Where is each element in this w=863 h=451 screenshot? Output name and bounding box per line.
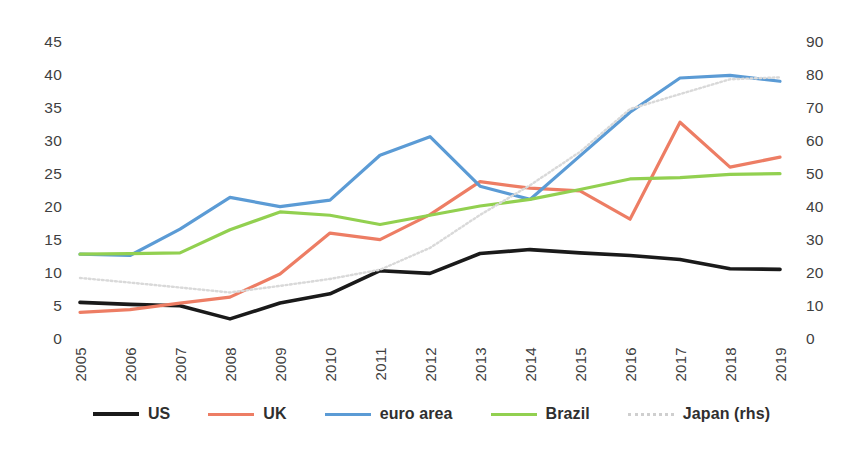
legend-label: US [148,405,170,423]
legend-swatch-icon [628,413,674,416]
series-line-uk [80,122,780,312]
legend-item-uk[interactable]: UK [208,405,286,423]
series-line-brazil [80,174,780,255]
legend-item-japan-rhs[interactable]: Japan (rhs) [628,405,770,423]
legend-label: Japan (rhs) [683,405,770,423]
legend-swatch-icon [491,413,537,416]
series-line-us [80,250,780,319]
plot-area [0,0,863,451]
legend-label: euro area [380,405,453,423]
legend-label: UK [263,405,286,423]
line-chart: 051015202530354045 0102030405060708090 2… [0,0,863,451]
legend-swatch-icon [208,413,254,416]
legend-label: Brazil [546,405,590,423]
legend-swatch-icon [325,413,371,416]
legend-item-brazil[interactable]: Brazil [491,405,590,423]
legend-item-us[interactable]: US [93,405,170,423]
legend-swatch-icon [93,412,139,416]
series-line-euro-area [80,75,780,255]
legend-item-euro-area[interactable]: euro area [325,405,453,423]
chart-legend: USUKeuro areaBrazilJapan (rhs) [0,405,863,423]
